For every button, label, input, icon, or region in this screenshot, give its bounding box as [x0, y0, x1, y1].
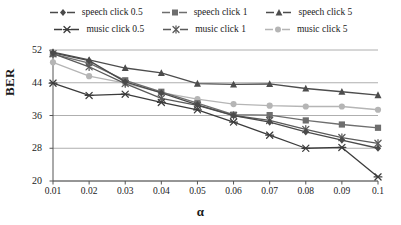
circle-marker-icon [230, 101, 236, 107]
circle-marker-icon [267, 103, 273, 109]
y-tick-label: 44 [20, 78, 42, 88]
x-bar-marker-icon [374, 174, 382, 180]
x-tick-label: 0.02 [69, 186, 109, 196]
x-bar-marker-icon [121, 91, 129, 97]
x-tick-label: 0.06 [214, 186, 254, 196]
x-bar-marker-icon [266, 132, 274, 138]
x-tick-label: 0.07 [250, 186, 290, 196]
square-marker-icon [303, 117, 309, 123]
circle-marker-icon [375, 107, 381, 113]
circle-marker-icon [50, 59, 56, 65]
x-axis-tick-labels: 0.010.020.030.040.050.060.070.080.090.1 [0, 186, 401, 200]
y-tick-label: 20 [20, 176, 42, 186]
x-tick-label: 0.08 [286, 186, 326, 196]
circle-marker-icon [339, 103, 345, 109]
ber-vs-alpha-chart: speech click 0.5 speech click 1 speech c… [0, 0, 401, 225]
x-tick-label: 0.03 [105, 186, 145, 196]
x-tick-label: 0.01 [33, 186, 73, 196]
x-tick-label: 0.04 [141, 186, 181, 196]
square-marker-icon [339, 121, 345, 127]
y-axis-title: BER [2, 68, 18, 96]
x-axis-title: α [0, 204, 401, 220]
x-bar-marker-icon [338, 144, 346, 150]
series-line [53, 52, 378, 95]
series-speech-click-0-5 [50, 49, 381, 152]
circle-marker-icon [86, 73, 92, 79]
series-line [53, 54, 378, 144]
square-marker-icon [375, 125, 381, 131]
series-line [53, 53, 378, 148]
y-tick-label: 36 [20, 111, 42, 121]
x-tick-label: 0.05 [177, 186, 217, 196]
circle-marker-icon [303, 103, 309, 109]
x-tick-label: 0.09 [322, 186, 362, 196]
y-tick-label: 52 [20, 45, 42, 55]
series-line [53, 83, 378, 177]
x-tick-label: 0.1 [358, 186, 398, 196]
x-bar-marker-icon [85, 92, 93, 98]
series-music-click-0-5 [49, 80, 382, 180]
series-speech-click-5 [50, 48, 382, 98]
y-tick-label: 28 [20, 143, 42, 153]
series-music-click-1 [50, 50, 381, 147]
x-bar-marker-icon [230, 119, 238, 125]
x-bar-marker-icon [302, 145, 310, 151]
